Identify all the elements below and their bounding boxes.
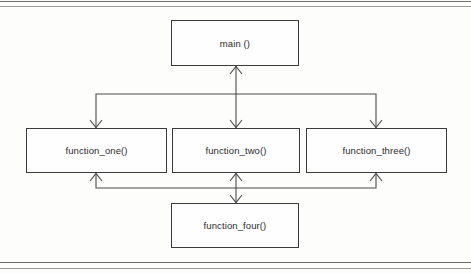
node-function-three[interactable]: function_three() — [306, 128, 447, 173]
node-function-one[interactable]: function_one() — [26, 128, 167, 173]
page-rule-bottom-outer — [0, 268, 471, 269]
node-function-three-label: function_three() — [342, 145, 410, 156]
node-function-four[interactable]: function_four() — [171, 203, 299, 248]
node-function-two[interactable]: function_two() — [172, 128, 300, 173]
node-main[interactable]: main () — [171, 20, 299, 66]
edge-main-bus-top — [96, 94, 376, 128]
edge-function-four-bus-bottom — [96, 173, 376, 188]
arrowhead-up-into-function-two — [230, 174, 242, 182]
node-function-four-label: function_four() — [204, 220, 267, 231]
arrowhead-down-into-function-four — [230, 195, 242, 203]
page-rule-bottom-inner — [0, 262, 471, 263]
arrowhead-up-into-function-one — [90, 174, 102, 182]
arrowhead-up-into-main — [230, 67, 242, 75]
arrowhead-down-into-function-one — [90, 120, 102, 128]
arrowhead-up-into-function-three — [370, 174, 382, 182]
node-main-label: main () — [220, 38, 250, 49]
arrowhead-down-into-function-two — [230, 120, 242, 128]
page-rule-top-inner — [0, 6, 471, 7]
arrowhead-down-into-function-three — [370, 120, 382, 128]
node-function-one-label: function_one() — [65, 145, 127, 156]
page-rule-top-outer — [0, 1, 471, 2]
node-function-two-label: function_two() — [205, 145, 266, 156]
diagram-page: main () function_one() function_two() fu… — [0, 0, 471, 274]
